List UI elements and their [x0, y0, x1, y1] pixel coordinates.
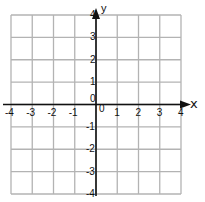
- coordinate-plane: [0, 0, 205, 202]
- y-tick-label: -4: [86, 189, 95, 199]
- x-tick-label: 0: [99, 104, 105, 114]
- y-tick-label: 2: [90, 55, 96, 65]
- x-tick-label: -4: [5, 108, 14, 118]
- x-tick-label: 4: [178, 108, 184, 118]
- x-tick-label: -2: [48, 108, 57, 118]
- y-tick-label: -3: [86, 167, 95, 177]
- x-tick-label: -3: [26, 108, 35, 118]
- x-tick-label: 3: [157, 108, 163, 118]
- x-tick-label: -1: [69, 108, 78, 118]
- y-tick-label: -1: [86, 122, 95, 132]
- axes: [3, 8, 191, 196]
- y-tick-label: 0: [90, 94, 96, 104]
- y-tick-label: -2: [86, 144, 95, 154]
- y-tick-label: 1: [90, 77, 96, 87]
- x-tick-label: 1: [114, 108, 120, 118]
- y-tick-label: 4: [90, 10, 96, 20]
- y-axis-name: y: [101, 3, 107, 14]
- y-tick-label: 3: [90, 32, 96, 42]
- x-tick-label: 2: [136, 108, 142, 118]
- x-axis-name: x: [190, 97, 198, 110]
